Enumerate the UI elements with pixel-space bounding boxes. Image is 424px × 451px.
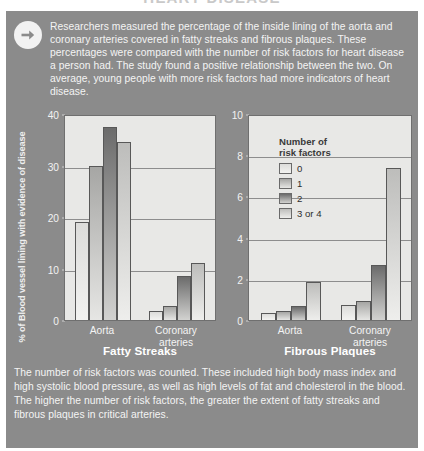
chart-fatty-streaks: 010203040 AortaCoronaryarteries Fatty St…: [30, 112, 220, 362]
infographic-page: HEART DISEASE Researchers measured the p…: [0, 0, 424, 451]
legend-label: 0: [297, 163, 302, 174]
legend-item: 0: [279, 161, 331, 176]
y-axis-ticks-left: 010203040: [38, 112, 62, 324]
infographic-panel: Researchers measured the percentage of t…: [6, 11, 418, 448]
bar: [291, 306, 306, 320]
legend-label: 3 or 4: [297, 208, 322, 219]
shared-y-axis-label: % of Blood vessel lining with evidence o…: [14, 112, 30, 362]
intro-text: Researchers measured the percentage of t…: [50, 20, 408, 99]
bar-group: [75, 116, 131, 320]
y-tick-label: 30: [48, 161, 59, 172]
legend-item: 1: [279, 176, 331, 191]
plot-area-fatty-streaks: [64, 115, 216, 321]
bar: [75, 222, 89, 320]
y-axis-label-text: % of Blood vessel lining with evidence o…: [17, 131, 27, 342]
legend-rows: 0123 or 4: [279, 161, 331, 221]
legend-item: 3 or 4: [279, 206, 331, 221]
legend-swatch: [279, 208, 292, 219]
y-tick-label: 0: [237, 316, 243, 327]
y-tick-label: 0: [53, 316, 59, 327]
legend-title: Number of risk factors: [279, 136, 331, 158]
x-category-line1: Aorta: [60, 325, 144, 337]
bar: [163, 306, 177, 320]
bottom-caption: The number of risk factors was counted. …: [14, 366, 412, 422]
bar: [306, 282, 321, 320]
legend-label: 1: [297, 178, 302, 189]
page-title-strip: HEART DISEASE: [0, 0, 424, 11]
bar: [177, 276, 191, 320]
x-category-line1: Aorta: [246, 325, 334, 337]
y-tick-label: 6: [237, 192, 243, 203]
bars-fatty-streaks: [65, 116, 215, 320]
legend-swatch: [279, 163, 292, 174]
y-tick-label: 10: [232, 110, 243, 121]
charts-region: % of Blood vessel lining with evidence o…: [6, 112, 418, 362]
chart-fibrous-plaques: 0246810 Number of risk factors 0123 or 4…: [220, 112, 418, 362]
legend-title-line2: risk factors: [279, 147, 331, 158]
x-category-line1: Coronary: [326, 325, 414, 337]
legend: Number of risk factors 0123 or 4: [279, 136, 331, 221]
chart-title-fatty-streaks: Fatty Streaks: [64, 344, 216, 357]
bar: [386, 168, 401, 320]
y-tick-label: 20: [48, 213, 59, 224]
bar: [261, 313, 276, 320]
y-tick-label: 10: [48, 264, 59, 275]
y-tick-label: 2: [237, 274, 243, 285]
bar: [276, 311, 291, 320]
x-category-label: Aorta: [246, 325, 334, 337]
bar: [341, 305, 356, 320]
bar: [89, 166, 103, 321]
page-title: HEART DISEASE: [0, 0, 424, 6]
bar: [117, 142, 131, 320]
legend-swatch: [279, 193, 292, 204]
bar: [356, 301, 371, 320]
bar: [103, 127, 117, 320]
bar: [191, 263, 205, 320]
bar: [371, 265, 386, 320]
bar: [149, 311, 163, 320]
x-category-label: Aorta: [60, 325, 144, 337]
arrow-right-circle-icon: [14, 21, 42, 49]
bar-group: [341, 116, 401, 320]
y-tick-label: 40: [48, 110, 59, 121]
legend-title-line1: Number of: [279, 136, 331, 147]
intro-block: Researchers measured the percentage of t…: [6, 11, 418, 105]
plot-area-fibrous-plaques: Number of risk factors 0123 or 4: [248, 115, 412, 321]
y-axis-ticks-right: 0246810: [222, 112, 246, 324]
chart-title-fibrous-plaques: Fibrous Plaques: [248, 344, 412, 357]
y-tick-label: 8: [237, 151, 243, 162]
bar-group: [149, 116, 205, 320]
x-category-line1: Coronary: [134, 325, 218, 337]
y-tick-label: 4: [237, 233, 243, 244]
legend-item: 2: [279, 191, 331, 206]
legend-label: 2: [297, 193, 302, 204]
legend-swatch: [279, 178, 292, 189]
